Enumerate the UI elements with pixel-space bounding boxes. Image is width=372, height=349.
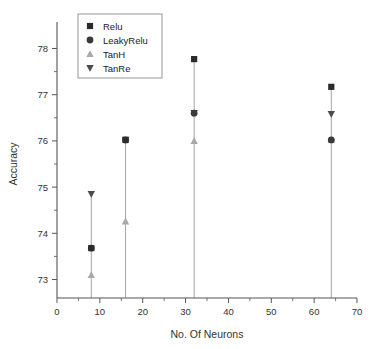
x-tick-label: 30 [180,306,191,317]
legend-label-tanre: TanRe [103,63,130,74]
data-point-relu [122,137,128,143]
x-tick-label: 0 [54,306,59,317]
scatter-plot: 010203040506070737475767778No. Of Neuron… [0,0,372,349]
y-tick-label: 76 [37,135,48,146]
x-tick-label: 20 [137,306,148,317]
data-point-relu [88,245,94,251]
x-tick-label: 10 [95,306,106,317]
y-axis-title: Accuracy [7,142,19,186]
y-tick-label: 77 [37,89,48,100]
legend-label-leakyrelu: LeakyRelu [103,35,148,46]
data-point-leakyrelu [328,137,335,144]
data-point-tanh [190,137,197,144]
data-point-tanh [88,271,95,278]
x-tick-label: 70 [352,306,363,317]
data-point-tanre [88,191,95,198]
data-point-tanh [122,218,129,225]
x-tick-label: 40 [223,306,234,317]
legend-label-tanh: TanH [103,49,125,60]
data-point-leakyrelu [191,110,198,117]
legend-marker-relu [87,23,93,29]
data-point-relu [328,84,334,90]
y-tick-label: 74 [37,228,48,239]
y-tick-label: 78 [37,43,48,54]
chart-container: 010203040506070737475767778No. Of Neuron… [0,0,372,349]
x-tick-label: 50 [266,306,277,317]
legend-label-relu: Relu [103,21,123,32]
y-tick-label: 73 [37,274,48,285]
y-tick-label: 75 [37,182,48,193]
data-point-relu [191,56,197,62]
x-axis-title: No. Of Neurons [171,328,244,340]
x-tick-label: 60 [309,306,320,317]
legend-marker-leakyrelu [87,37,94,44]
data-point-tanre [328,111,335,118]
